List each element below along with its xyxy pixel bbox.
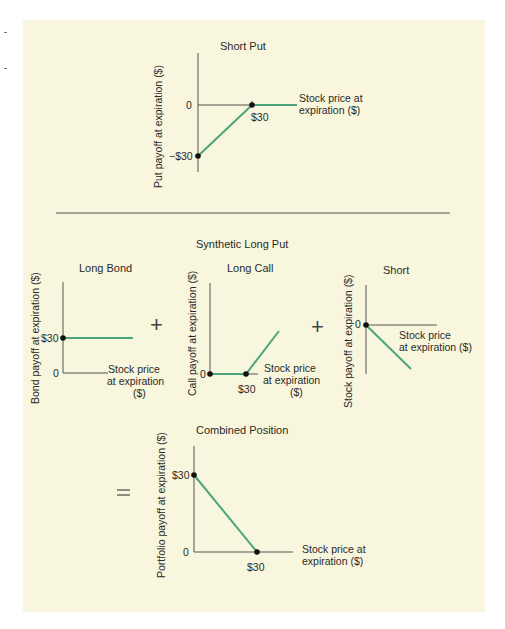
combined-position-chart [191, 446, 293, 555]
y-tick: 0 [53, 367, 59, 379]
data-point [243, 371, 249, 377]
y-axis-label: Bond payoff at expiration ($) [29, 272, 41, 404]
chart-title: Short [383, 264, 409, 276]
data-point [249, 102, 255, 108]
x-axis-label-line2: at expiration ($) [399, 341, 472, 353]
x-axis-label-line2: at expiration [107, 375, 164, 387]
section-title: Synthetic Long Put [196, 238, 288, 250]
y-tick: 0 [355, 318, 361, 330]
data-point [60, 335, 66, 341]
y-tick: 0 [200, 368, 206, 380]
x-axis-label-line2: expiration ($) [299, 104, 360, 116]
payoff-line [198, 105, 297, 156]
y-tick: $30 [172, 469, 190, 481]
x-axis-label-line2: at expiration [263, 374, 320, 386]
data-point [363, 322, 369, 328]
y-axis-label: Portfolio payoff at expiration ($) [155, 432, 167, 578]
x-axis-label-line1: Stock price at [299, 92, 363, 104]
y-tick: −$30 [169, 150, 193, 162]
chart-title: Combined Position [196, 424, 288, 436]
x-axis-label-line1: Stock price [108, 363, 160, 375]
y-axis-label: Call payoff at expiration ($) [186, 271, 198, 396]
x-axis-label-line1: Stock price [399, 329, 451, 341]
payoff-line [194, 475, 257, 552]
payoff-diagrams [0, 0, 505, 629]
long-bond-chart [60, 282, 133, 373]
y-tick: 0 [183, 546, 189, 558]
x-axis-label-line3: ($) [290, 386, 303, 398]
x-axis-label-line1: Stock price [264, 362, 316, 374]
y-tick: 0 [186, 99, 192, 111]
x-axis-label-line1: Stock price at [302, 543, 366, 555]
chart-title: Long Bond [79, 262, 132, 274]
plus-operator: + [311, 316, 324, 338]
y-tick: $30 [41, 332, 59, 344]
x-axis-label-line2: expiration ($) [302, 555, 363, 567]
x-tick: $30 [238, 383, 256, 395]
data-point [191, 472, 197, 478]
data-point [195, 153, 201, 159]
data-point [207, 371, 213, 377]
y-axis-label: Stock payoff at expiration ($) [342, 275, 354, 408]
x-axis-label-line3: ($) [133, 387, 146, 399]
equals-operator [117, 490, 130, 495]
short-put-chart [195, 53, 297, 172]
data-point [254, 549, 260, 555]
x-tick: $30 [251, 111, 269, 123]
plus-operator: + [150, 314, 163, 336]
x-tick: $30 [247, 561, 265, 573]
y-axis-label: Put payoff at expiration ($) [152, 65, 164, 188]
chart-title: Long Call [227, 262, 273, 274]
chart-title: Short Put [220, 40, 266, 52]
